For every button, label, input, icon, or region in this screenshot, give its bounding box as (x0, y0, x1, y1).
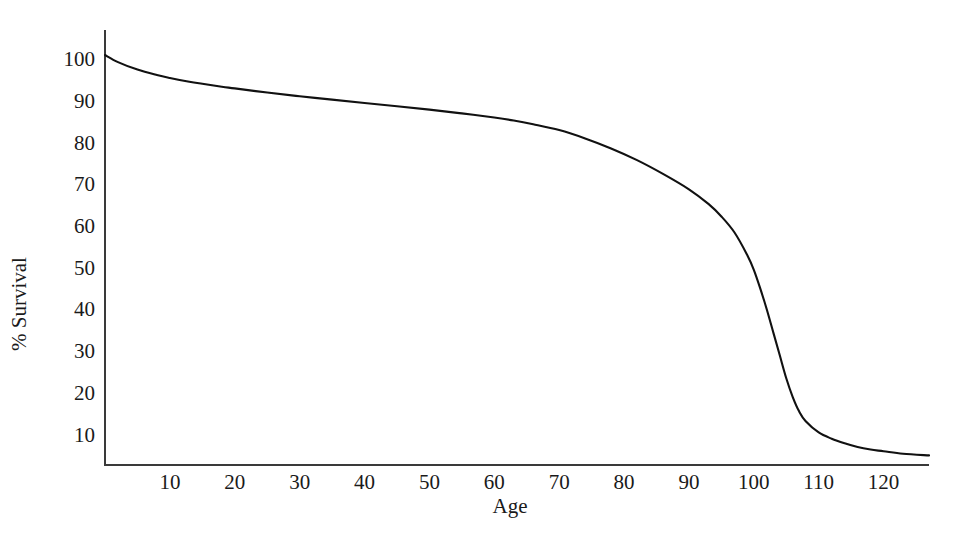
y-tick-label: 10 (40, 424, 95, 445)
x-tick-label: 120 (868, 472, 900, 493)
x-tick-label: 100 (738, 472, 770, 493)
survival-chart: 102030405060708090100 102030405060708090… (0, 0, 957, 541)
chart-plot-area (0, 0, 957, 541)
x-tick-label: 80 (614, 472, 635, 493)
x-tick-label: 30 (289, 472, 310, 493)
x-axis-title: Age (493, 496, 528, 517)
y-tick-label: 100 (40, 49, 95, 70)
y-tick-label: 40 (40, 299, 95, 320)
x-tick-label: 40 (354, 472, 375, 493)
y-tick-label: 30 (40, 341, 95, 362)
y-axis-title: % Survival (9, 257, 30, 351)
x-tick-label: 50 (419, 472, 440, 493)
x-tick-label: 90 (678, 472, 699, 493)
x-tick-label: 10 (159, 472, 180, 493)
data-series-group (105, 55, 929, 455)
y-tick-label: 80 (40, 132, 95, 153)
y-tick-label: 50 (40, 257, 95, 278)
y-tick-label: 70 (40, 174, 95, 195)
x-tick-label: 110 (803, 472, 834, 493)
y-tick-label: 60 (40, 216, 95, 237)
y-tick-label: 90 (40, 90, 95, 111)
x-tick-label: 70 (549, 472, 570, 493)
x-tick-label: 60 (484, 472, 505, 493)
x-tick-label: 20 (224, 472, 245, 493)
survival-curve-line (105, 55, 929, 455)
y-tick-label: 20 (40, 382, 95, 403)
axes-group (104, 30, 929, 465)
